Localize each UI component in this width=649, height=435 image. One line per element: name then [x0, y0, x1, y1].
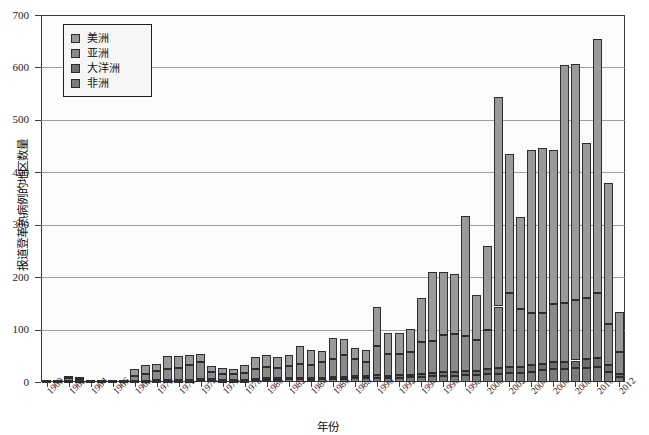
- y-axis-tick: [35, 172, 41, 173]
- bar-segment: [439, 376, 448, 382]
- y-axis-tick-label: 700: [1, 10, 29, 21]
- bar-group: [285, 15, 294, 382]
- bar-segment: [351, 378, 360, 382]
- bar-segment: [362, 350, 371, 362]
- bar-segment: [362, 376, 371, 378]
- bar-group: [428, 15, 437, 382]
- bar-segment: [549, 304, 558, 362]
- bar-segment: [450, 372, 459, 376]
- y-axis-tick-label: 500: [1, 114, 29, 125]
- bar-segment: [538, 364, 547, 371]
- bar-segment: [417, 377, 426, 382]
- bar-segment: [604, 183, 613, 325]
- bar-group: [560, 15, 569, 382]
- legend-swatch-icon: [71, 49, 80, 58]
- legend-item: 亚洲: [71, 46, 142, 60]
- y-axis-tick: [35, 382, 41, 383]
- bar-group: [538, 15, 547, 382]
- bar-group: [53, 15, 62, 382]
- bar-segment: [262, 367, 271, 379]
- bar-segment: [571, 300, 580, 360]
- bar-segment: [207, 372, 216, 379]
- bar-segment: [296, 364, 305, 378]
- bar-segment: [395, 333, 404, 354]
- bar-segment: [141, 365, 150, 373]
- y-axis-tick-label: 100: [1, 324, 29, 335]
- bar-segment: [285, 378, 294, 380]
- bar-segment: [406, 375, 415, 378]
- bar-segment: [472, 295, 481, 339]
- bar-segment: [417, 298, 426, 342]
- bar-group: [229, 15, 238, 382]
- bar-segment: [362, 362, 371, 377]
- bar-segment: [196, 379, 205, 381]
- bar-segment: [163, 380, 172, 382]
- bar-segment: [207, 379, 216, 381]
- bar-segment: [340, 379, 349, 382]
- bar-group: [516, 15, 525, 382]
- bar-segment: [483, 369, 492, 374]
- bar-segment: [373, 307, 382, 346]
- bar-segment: [285, 366, 294, 378]
- bar-group: [42, 15, 51, 382]
- legend-label: 亚洲: [87, 48, 109, 59]
- bar-segment: [571, 64, 580, 300]
- legend: 美洲亚洲大洋洲非洲: [63, 24, 152, 97]
- bar-segment: [240, 380, 249, 382]
- bar-group: [362, 15, 371, 382]
- bar-segment: [285, 355, 294, 367]
- bar-segment: [130, 381, 139, 383]
- bar-segment: [64, 376, 73, 379]
- y-axis-tick: [35, 330, 41, 331]
- bar-segment: [384, 378, 393, 382]
- bar-group: [505, 15, 514, 382]
- bar-segment: [251, 357, 260, 369]
- bar-segment: [406, 329, 415, 352]
- bar-group: [296, 15, 305, 382]
- bar-segment: [185, 380, 194, 382]
- bar-group: [307, 15, 316, 382]
- bar-segment: [351, 359, 360, 376]
- bar-group: [450, 15, 459, 382]
- bar-segment: [571, 368, 580, 382]
- bar-segment: [439, 372, 448, 376]
- bar-segment: [582, 143, 591, 298]
- bar-segment: [273, 357, 282, 367]
- bar-segment: [384, 333, 393, 354]
- bar-segment: [174, 356, 183, 369]
- bar-segment: [307, 365, 316, 379]
- bar-group: [582, 15, 591, 382]
- bar-group: [384, 15, 393, 382]
- bar-group: [163, 15, 172, 382]
- bar-segment: [152, 364, 161, 371]
- bar-segment: [97, 380, 106, 382]
- bar-segment: [351, 348, 360, 360]
- bar-segment: [549, 369, 558, 382]
- y-axis-tick: [35, 67, 41, 68]
- bar-segment: [340, 355, 349, 377]
- bar-segment: [461, 336, 470, 371]
- bar-segment: [516, 367, 525, 373]
- bar-segment: [329, 377, 338, 379]
- y-axis-title: 报道登革热病例的地区数量: [14, 139, 30, 271]
- bar-segment: [615, 377, 624, 382]
- bar-segment: [417, 342, 426, 373]
- bar-segment: [75, 381, 84, 383]
- bar-group: [152, 15, 161, 382]
- bar-segment: [406, 352, 415, 375]
- bar-group: [251, 15, 260, 382]
- y-axis-tick: [35, 225, 41, 226]
- bar-segment: [505, 367, 514, 373]
- bar-segment: [483, 374, 492, 382]
- bar-segment: [196, 362, 205, 379]
- bar-segment: [296, 346, 305, 364]
- bar-group: [549, 15, 558, 382]
- bar-segment: [152, 371, 161, 380]
- bar-segment: [251, 379, 260, 381]
- bar-segment: [119, 380, 128, 382]
- bar-segment: [472, 375, 481, 382]
- bar-segment: [395, 378, 404, 382]
- bar-segment: [527, 372, 536, 382]
- bar-segment: [296, 378, 305, 380]
- bar-segment: [593, 39, 602, 293]
